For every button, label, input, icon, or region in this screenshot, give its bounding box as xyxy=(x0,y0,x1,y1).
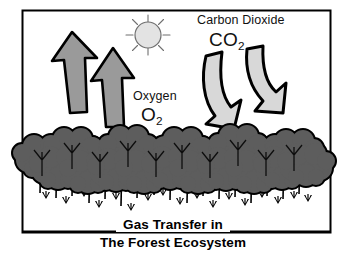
carbon-dioxide-formula: CO2 xyxy=(209,30,245,49)
gas-transfer-diagram: Carbon Dioxide CO2 Oxygen O2 Gas Transfe… xyxy=(0,0,346,255)
oxygen-formula: O2 xyxy=(141,105,163,124)
oxygen-label: Oxygen xyxy=(133,90,177,103)
diagram-canvas xyxy=(0,0,346,255)
forest-canopy xyxy=(13,125,335,193)
co2-formula-base: CO xyxy=(209,29,238,50)
o2-formula-base: O xyxy=(141,104,156,125)
co2-formula-subscript: 2 xyxy=(238,39,245,52)
o2-formula-subscript: 2 xyxy=(156,114,163,127)
carbon-dioxide-label: Carbon Dioxide xyxy=(197,14,285,27)
